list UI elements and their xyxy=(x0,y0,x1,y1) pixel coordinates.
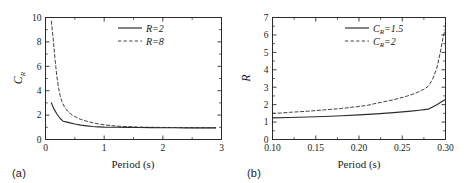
x-tick-label: 0.15 xyxy=(307,143,324,153)
chart-panel-b: 0.100.150.200.250.3001234567 Period (s) … xyxy=(235,0,470,183)
legend-label-2: R=8 xyxy=(145,36,164,47)
legend: R=2R=8 xyxy=(118,23,164,47)
y-tick-label: 5 xyxy=(264,48,269,58)
curve-c-r-1-5 xyxy=(273,99,446,117)
y-tick-label: 4 xyxy=(37,86,42,96)
legend-label-2: CR=2 xyxy=(373,36,396,50)
plot-frame xyxy=(46,18,222,140)
svg-text:R: R xyxy=(239,74,253,83)
curve-r-2 xyxy=(51,103,215,128)
x-tick-label: 0.30 xyxy=(437,143,454,153)
x-axis-title: Period (s) xyxy=(337,158,380,171)
x-tick-label: 3 xyxy=(219,143,224,153)
chart-a-svg: 01230246810 Period (s) CR R=2R=8 xyxy=(0,0,235,183)
y-axis-title-main: R xyxy=(239,74,253,83)
x-tick-label: 0.20 xyxy=(351,143,368,153)
y-tick-label: 6 xyxy=(264,30,269,40)
panel-label-b: (b) xyxy=(247,167,261,179)
chart-b-svg: 0.100.150.200.250.3001234567 Period (s) … xyxy=(235,0,470,183)
x-tick-label: 0.25 xyxy=(394,143,411,153)
svg-text:CR: CR xyxy=(11,71,27,84)
y-axis-title: R xyxy=(239,74,253,83)
y-axis-title-subscript: R xyxy=(19,71,27,77)
x-tick-label: 1 xyxy=(102,143,107,153)
y-tick-label: 1 xyxy=(264,117,269,127)
y-tick-label: 0 xyxy=(264,135,269,145)
y-tick-label: 4 xyxy=(264,65,269,75)
y-tick-label: 0 xyxy=(37,135,42,145)
y-tick-label: 8 xyxy=(37,37,42,47)
axis-ticks xyxy=(273,18,446,140)
panel-label-a: (a) xyxy=(12,167,26,179)
legend: CR=1.5CR=2 xyxy=(345,23,403,50)
data-curves xyxy=(51,21,215,128)
y-tick-label: 3 xyxy=(264,83,269,93)
y-tick-label: 7 xyxy=(264,13,269,23)
y-tick-label: 2 xyxy=(264,100,269,110)
curve-r-8 xyxy=(51,21,215,128)
x-tick-label: 2 xyxy=(160,143,165,153)
y-axis-title: CR xyxy=(11,71,27,84)
axis-tick-labels: 01230246810 xyxy=(32,13,224,153)
y-tick-label: 6 xyxy=(37,62,42,72)
y-tick-label: 2 xyxy=(37,110,42,120)
axis-tick-labels: 0.100.150.200.250.3001234567 xyxy=(264,13,454,153)
figure-container: 01230246810 Period (s) CR R=2R=8 (a) 0.1… xyxy=(0,0,470,183)
y-tick-label: 10 xyxy=(32,13,42,23)
chart-panel-a: 01230246810 Period (s) CR R=2R=8 (a) xyxy=(0,0,235,183)
axis-ticks xyxy=(46,18,222,140)
plot-frame xyxy=(273,18,446,140)
legend-label-1: CR=1.5 xyxy=(373,23,403,37)
x-tick-label: 0 xyxy=(43,143,48,153)
legend-label-1: R=2 xyxy=(145,23,164,34)
x-axis-title: Period (s) xyxy=(111,158,154,171)
